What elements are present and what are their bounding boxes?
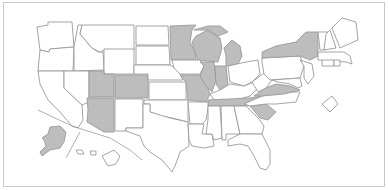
state-wyoming[interactable] <box>104 49 134 74</box>
us-map <box>0 0 388 190</box>
state-florida[interactable] <box>228 134 270 170</box>
state-michigan[interactable] <box>224 40 242 66</box>
state-dc-inset[interactable] <box>322 96 338 112</box>
state-rhode-island[interactable] <box>334 60 340 66</box>
state-arkansas[interactable] <box>188 102 208 124</box>
state-hawaii-1[interactable] <box>76 150 84 154</box>
state-colorado[interactable] <box>115 75 148 98</box>
state-oregon[interactable] <box>38 47 74 71</box>
state-south-dakota[interactable] <box>136 46 170 65</box>
state-hawaii-3[interactable] <box>102 150 120 166</box>
state-new-york[interactable] <box>262 32 318 60</box>
state-maine[interactable] <box>332 18 358 48</box>
state-arizona[interactable] <box>87 98 114 132</box>
state-pennsylvania[interactable] <box>262 56 304 80</box>
state-connecticut[interactable] <box>322 60 334 66</box>
state-hawaii-2[interactable] <box>90 151 96 155</box>
state-kansas[interactable] <box>149 82 186 100</box>
state-utah[interactable] <box>89 71 114 97</box>
state-alaska[interactable] <box>40 126 66 156</box>
state-north-dakota[interactable] <box>136 26 169 45</box>
state-new-mexico[interactable] <box>115 99 143 131</box>
